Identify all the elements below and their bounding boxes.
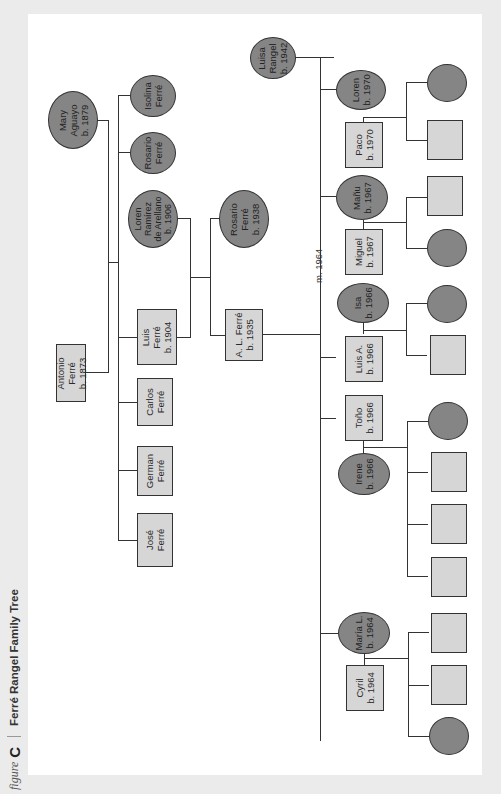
- connector: [363, 222, 406, 223]
- connector: [363, 117, 406, 118]
- connector: [408, 736, 429, 737]
- connector: [320, 418, 336, 419]
- child-male: [431, 665, 467, 705]
- connector: [190, 277, 210, 278]
- person-al-ferre: A. L. Ferré b. 1935: [225, 309, 263, 361]
- header-divider: [7, 736, 21, 737]
- connector: [408, 632, 429, 633]
- sibling-spine-gen2: [118, 95, 119, 541]
- connector: [363, 322, 364, 334]
- connector: [118, 470, 137, 471]
- person-isolina-ferre: Isolina Ferré: [130, 75, 176, 117]
- connector: [320, 196, 336, 197]
- connector: [406, 197, 407, 249]
- person-cyril: Cyril b. 1964: [346, 665, 384, 711]
- marriage-year: m. 1964: [313, 249, 324, 283]
- connector: [363, 447, 407, 448]
- connector: [406, 197, 427, 198]
- marriage-line: [262, 334, 320, 335]
- child-male: [427, 120, 463, 160]
- child-female: [427, 64, 467, 102]
- connector: [364, 652, 365, 666]
- connector: [97, 120, 108, 121]
- connector: [407, 421, 428, 422]
- child-male: [430, 335, 466, 375]
- child-male: [431, 452, 467, 492]
- connector: [118, 152, 130, 153]
- figure-word: figure: [7, 762, 22, 790]
- child-female: [427, 229, 467, 267]
- connector: [407, 524, 428, 525]
- connector: [210, 335, 225, 336]
- person-luisa-rangel: Luisa Rangel b. 1942: [250, 37, 296, 79]
- person-maria-l: María L. b. 1964: [338, 612, 390, 654]
- person-miguel: Miguel b. 1967: [345, 229, 383, 275]
- connector: [407, 472, 428, 473]
- connector: [85, 372, 108, 373]
- person-irene: Irene b. 1966: [338, 453, 390, 495]
- connector: [406, 82, 427, 83]
- connector: [118, 337, 137, 338]
- connector: [320, 357, 336, 358]
- figure-header: figure C Ferré Rangel Family Tree: [2, 589, 26, 790]
- connector: [408, 685, 429, 686]
- person-manu: Mañu b. 1967: [336, 175, 388, 220]
- child-male: [431, 613, 467, 653]
- connector: [320, 89, 336, 90]
- person-german-ferre: German Ferré: [137, 446, 173, 496]
- child-male: [431, 557, 467, 597]
- child-male: [431, 504, 467, 544]
- sibling-spine-gen3: [210, 218, 211, 336]
- person-luis-a: Luis A. b. 1966: [345, 336, 383, 382]
- child-female: [429, 717, 469, 755]
- person-loren-1970: Loren b. 1970: [336, 70, 386, 110]
- connector: [294, 57, 334, 58]
- person-luis-ferre: Luis Ferré b. 1904: [137, 309, 177, 365]
- person-carlos-ferre: Carlos Ferré: [137, 378, 173, 426]
- person-jose-ferre: José Ferré: [137, 513, 173, 567]
- person-tono: Toño b. 1966: [345, 395, 383, 441]
- person-mary-aguayo: Mary Aguayo b. 1879: [48, 91, 98, 149]
- connector: [406, 82, 407, 140]
- child-female: [427, 285, 467, 323]
- child-female: [428, 402, 468, 440]
- person-rosario-ferre-sr: Rosario Ferré: [130, 132, 176, 174]
- sibling-spine-gen4: [320, 57, 321, 741]
- couple-line-gen1: [108, 120, 109, 373]
- connector: [364, 658, 408, 659]
- child-male: [427, 176, 463, 216]
- person-antonio-ferre: Antonio Ferré b. 1873: [56, 344, 86, 402]
- connector: [406, 303, 407, 355]
- connector: [108, 262, 118, 263]
- connector: [363, 330, 406, 331]
- connector: [178, 218, 190, 219]
- person-rosario-ferre-1938: Rosario Ferré b. 1938: [219, 190, 269, 248]
- person-paco: Paco b. 1970: [345, 122, 383, 168]
- person-loren-ramirez: Loren Ramírez de Arellano b. 1906: [128, 190, 178, 248]
- connector: [118, 95, 130, 96]
- connector: [118, 402, 137, 403]
- connector: [320, 633, 338, 634]
- connector: [407, 421, 408, 577]
- couple-line-gen2: [190, 218, 191, 338]
- connector: [407, 576, 428, 577]
- connector: [406, 303, 427, 304]
- figure-title: Ferré Rangel Family Tree: [8, 589, 20, 726]
- connector: [406, 248, 427, 249]
- connector: [406, 140, 427, 141]
- figure-letter: C: [6, 747, 23, 758]
- connector: [406, 355, 427, 356]
- connector: [210, 218, 219, 219]
- connector: [177, 337, 190, 338]
- person-isa: Isa b. 1966: [337, 283, 389, 323]
- connector: [118, 540, 137, 541]
